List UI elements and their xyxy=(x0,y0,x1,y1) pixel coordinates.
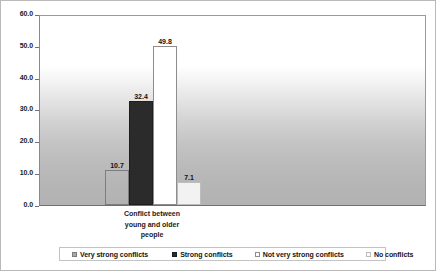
y-axis-tick-label: 40.0 xyxy=(20,74,33,81)
plot-area: 10.7 32.4 49.8 7.1 xyxy=(39,15,426,206)
legend-item-label: Not very strong conflicts xyxy=(263,251,344,258)
legend-item-label: Strong conflicts xyxy=(180,251,232,258)
x-axis-category-label-line: people xyxy=(87,230,217,241)
bar-no-conflicts[interactable]: 7.1 xyxy=(177,182,201,205)
bar-value-label: 32.4 xyxy=(134,93,148,100)
legend-swatch-icon xyxy=(172,252,177,257)
bar-not-very-strong-conflicts[interactable]: 49.8 xyxy=(153,46,177,205)
y-axis-tick-label: 20.0 xyxy=(20,137,33,144)
chart-legend: Very strong conflicts Strong conflicts N… xyxy=(59,247,386,261)
chart-figure: 60.0 50.0 40.0 30.0 20.0 10.0 0.0 xyxy=(0,0,436,271)
y-axis-tick-label: 10.0 xyxy=(20,169,33,176)
legend-swatch-icon xyxy=(366,252,371,257)
y-axis-tick-label: 0.0 xyxy=(24,201,33,208)
x-axis-category-label-line: young and older xyxy=(87,220,217,231)
y-axis-tick-label: 50.0 xyxy=(20,42,33,49)
legend-item-strong-conflicts[interactable]: Strong conflicts xyxy=(168,251,236,258)
legend-item-not-very-strong-conflicts[interactable]: Not very strong conflicts xyxy=(251,251,348,258)
bar-value-label: 10.7 xyxy=(110,162,124,169)
legend-item-very-strong-conflicts[interactable]: Very strong conflicts xyxy=(68,251,152,258)
y-axis-tick-label: 60.0 xyxy=(20,10,33,17)
legend-item-label: No conflicts xyxy=(374,251,413,258)
bar-group: 10.7 32.4 49.8 7.1 xyxy=(39,15,426,206)
legend-swatch-icon xyxy=(72,252,77,257)
bar-value-label: 7.1 xyxy=(184,174,194,181)
x-axis-category-label: Conflict between young and older people xyxy=(87,209,217,241)
bar-value-label: 49.8 xyxy=(158,38,172,45)
bar-strong-conflicts[interactable]: 32.4 xyxy=(129,101,153,205)
y-axis: 60.0 50.0 40.0 30.0 20.0 10.0 0.0 xyxy=(1,15,39,207)
legend-swatch-icon xyxy=(255,252,260,257)
legend-item-no-conflicts[interactable]: No conflicts xyxy=(362,251,417,258)
legend-item-label: Very strong conflicts xyxy=(80,251,148,258)
y-axis-tick-label: 30.0 xyxy=(20,105,33,112)
x-axis-category-label-line: Conflict between xyxy=(87,209,217,220)
bar-very-strong-conflicts[interactable]: 10.7 xyxy=(105,170,129,205)
